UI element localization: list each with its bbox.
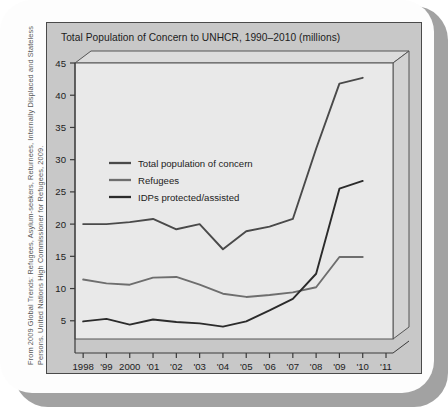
y-axis-tick-label: 45 [55, 58, 66, 69]
x-axis-tick-label: '09 [333, 361, 346, 372]
line-chart: 51015202530354045 1998'992000'01'02'03'0… [47, 23, 423, 375]
x-axis-tick-label: '01 [147, 361, 160, 372]
legend-label: Refugees [138, 175, 179, 186]
legend-label: IDPs protected/assisted [138, 192, 239, 203]
y-axis-tick-label: 40 [55, 90, 66, 101]
page-card: From 2009 Global Trends: Refugees, Asylu… [0, 0, 434, 393]
y-axis-tick-label: 35 [55, 122, 66, 133]
y-axis-tick-label: 30 [55, 154, 66, 165]
x-axis-tick-label: '05 [240, 361, 253, 372]
y-axis-tick-label: 10 [55, 283, 66, 294]
plot-box-right-face [393, 51, 409, 339]
source-caption-line-1: From 2009 Global Trends: Refugees, Asylu… [26, 5, 36, 365]
y-axis-tick-label: 20 [55, 219, 66, 230]
x-axis-tick-label: '08 [310, 361, 323, 372]
y-axis-tick-label: 15 [55, 251, 66, 262]
y-axis-tick-label: 5 [61, 315, 66, 326]
y-axis-tick-label: 25 [55, 186, 66, 197]
x-axis-tick-label: '02 [170, 361, 183, 372]
legend-label: Total population of concern [138, 158, 253, 169]
x-axis-tick-label: '10 [356, 361, 369, 372]
x-axis-3d-edge [393, 341, 409, 353]
source-caption-line-2: Persons. United Nations High Commissione… [36, 5, 46, 365]
figure-panel: Total Population of Concern to UNHCR, 19… [46, 22, 422, 374]
x-axis-tick-label: '07 [287, 361, 300, 372]
x-axis-tick-label: '06 [263, 361, 276, 372]
x-axis-tick-label: '99 [100, 361, 113, 372]
x-axis-tick-label: '04 [217, 361, 230, 372]
x-axis: 1998'992000'01'02'03'04'05'06'07'08'09'1… [72, 353, 391, 372]
x-axis-tick-label: '11 [380, 361, 392, 372]
x-axis-tick-label: 2000 [119, 361, 140, 372]
y-axis: 51015202530354045 [55, 58, 75, 327]
x-axis-tick-label: 1998 [72, 361, 93, 372]
x-axis-tick-label: '03 [193, 361, 206, 372]
plot-box-top-face [75, 51, 409, 63]
